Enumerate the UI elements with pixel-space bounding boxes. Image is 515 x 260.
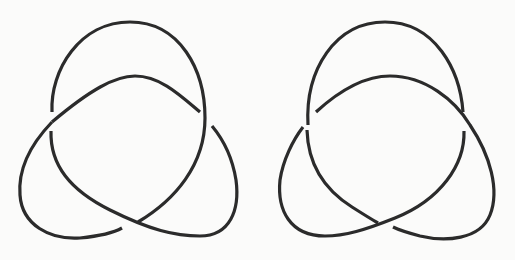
- trefoil-knot-right: right-handed-trefoil: [255, 0, 515, 260]
- strand-inner-arc: [52, 76, 200, 122]
- knot-left-diagram: [0, 0, 260, 260]
- strand-left-loop: [20, 122, 122, 238]
- trefoil-knot-left: left-handed-trefoil: [0, 0, 260, 260]
- knot-left-strands: [20, 22, 237, 238]
- knot-right-diagram: [255, 0, 515, 260]
- strand-top-lobe: [308, 22, 463, 125]
- knot-right-strands: [280, 22, 494, 239]
- strand-top-lobe: [52, 22, 205, 222]
- strand-lower-inner: [307, 130, 378, 223]
